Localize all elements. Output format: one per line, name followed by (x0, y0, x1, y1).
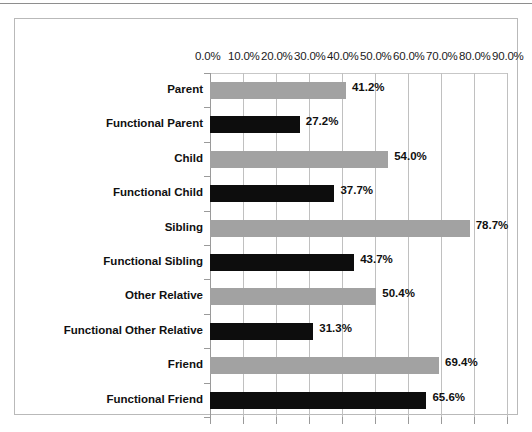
x-axis-tick-0 (210, 417, 211, 424)
category-axis-tick-10 (204, 417, 210, 418)
bar-value-label: 78.7% (476, 219, 509, 231)
x-axis-tick-50 (375, 417, 376, 424)
bar-value-label: 37.7% (340, 184, 373, 196)
bar-row: 65.6% (210, 383, 507, 417)
category-label-functional-other-relative: Functional Other Relative (35, 324, 203, 336)
bar-value-label: 31.3% (319, 322, 352, 334)
category-axis-labels: ParentFunctional ParentChildFunctional C… (35, 73, 203, 417)
bar-friend[interactable] (210, 357, 439, 374)
bar-functional-child[interactable] (210, 185, 334, 202)
bar-value-label: 43.7% (360, 253, 393, 265)
page-top-rule (0, 3, 532, 4)
x-tick-label-40: 40.0% (327, 50, 359, 62)
bar-functional-sibling[interactable] (210, 254, 354, 271)
bar-row: 31.3% (210, 314, 507, 348)
category-label-other-relative: Other Relative (35, 289, 203, 301)
bar-value-label: 69.4% (445, 356, 478, 368)
category-label-child: Child (35, 152, 203, 164)
category-label-friend: Friend (35, 358, 203, 370)
x-tick-label-10: 10.0% (228, 50, 260, 62)
bar-row: 41.2% (210, 73, 507, 107)
bar-value-label: 65.6% (432, 391, 465, 403)
category-label-functional-child: Functional Child (35, 186, 203, 198)
bar-row: 27.2% (210, 107, 507, 141)
bar-functional-friend[interactable] (210, 392, 426, 409)
x-tick-label-80: 80.0% (459, 50, 491, 62)
category-label-functional-parent: Functional Parent (35, 117, 203, 129)
x-tick-label-0: 0.0% (195, 50, 220, 62)
bar-row: 37.7% (210, 176, 507, 210)
x-tick-label-60: 60.0% (393, 50, 425, 62)
bar-row: 43.7% (210, 245, 507, 279)
bar-row: 50.4% (210, 279, 507, 313)
plot-area: 41.2%27.2%54.0%37.7%78.7%43.7%50.4%31.3%… (210, 73, 507, 417)
x-tick-label-50: 50.0% (360, 50, 392, 62)
bar-functional-other-relative[interactable] (210, 323, 313, 340)
x-axis-tick-90 (507, 417, 508, 424)
category-label-functional-sibling: Functional Sibling (35, 255, 203, 267)
x-axis-tick-70 (441, 417, 442, 424)
bar-value-label: 50.4% (382, 287, 415, 299)
x-axis-tick-labels: 0.0%10.0%20.0%30.0%40.0%50.0%60.0%70.0%8… (196, 50, 521, 66)
x-axis-tick-60 (408, 417, 409, 424)
category-label-sibling: Sibling (35, 221, 203, 233)
bar-child[interactable] (210, 151, 388, 168)
bar-row: 54.0% (210, 142, 507, 176)
chart-frame: 0.0%10.0%20.0%30.0%40.0%50.0%60.0%70.0%8… (14, 18, 518, 415)
bar-row: 69.4% (210, 348, 507, 382)
bar-parent[interactable] (210, 82, 346, 99)
bar-value-label: 27.2% (306, 115, 339, 127)
bar-row: 78.7% (210, 211, 507, 245)
bar-value-label: 41.2% (352, 81, 385, 93)
x-tick-label-20: 20.0% (261, 50, 293, 62)
x-axis-tick-10 (243, 417, 244, 424)
gridline-90 (507, 73, 508, 417)
bar-functional-parent[interactable] (210, 116, 300, 133)
x-axis-tick-20 (276, 417, 277, 424)
bar-value-label: 54.0% (394, 150, 427, 162)
x-tick-label-30: 30.0% (294, 50, 326, 62)
x-axis-tick-30 (309, 417, 310, 424)
category-label-parent: Parent (35, 83, 203, 95)
x-tick-label-90: 90.0% (492, 50, 524, 62)
category-label-functional-friend: Functional Friend (35, 393, 203, 405)
x-axis-tick-80 (474, 417, 475, 424)
bar-sibling[interactable] (210, 220, 470, 237)
x-tick-label-70: 70.0% (426, 50, 458, 62)
bar-other-relative[interactable] (210, 288, 376, 305)
x-axis-tick-40 (342, 417, 343, 424)
